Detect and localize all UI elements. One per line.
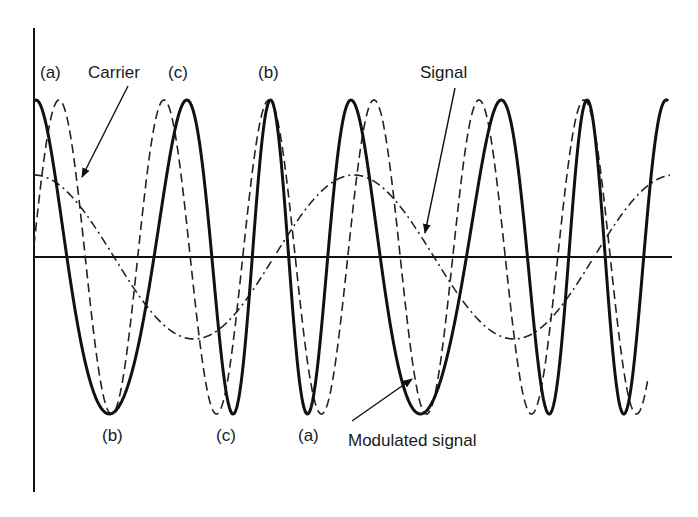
label-signal: Signal: [420, 64, 467, 81]
label-b-bottom: (b): [102, 427, 123, 444]
modulated-signal-arrow: [352, 379, 412, 421]
carrier-arrow: [82, 86, 128, 177]
label-b-top: (b): [258, 64, 279, 81]
label-modulated-signal: Modulated signal: [348, 432, 477, 449]
label-a-top: (a): [40, 64, 61, 81]
label-carrier: Carrier: [88, 64, 140, 81]
label-c-top: (c): [168, 64, 188, 81]
label-a-bottom: (a): [298, 427, 319, 444]
label-c-bottom: (c): [216, 427, 236, 444]
signal-arrow: [425, 88, 455, 233]
